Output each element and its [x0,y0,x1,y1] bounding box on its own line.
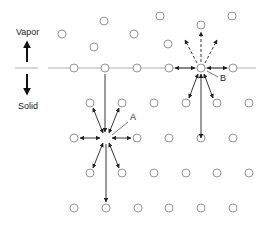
vapor-label: Vapor [16,28,39,37]
solid-label: Solid [18,102,38,111]
lattice-atom [245,169,253,177]
lattice-atom [165,64,173,72]
lattice-atom [133,64,141,72]
vacancy-diffusion-diagram: Vapor Solid A B [0,0,268,229]
lattice-atom [70,204,78,212]
vacancy-b-site [197,64,205,72]
vacancy-a-label: A [130,113,136,122]
lattice-atom [134,204,142,212]
lattice-atom [150,99,158,107]
lattice-atom [86,169,94,177]
vapor-atom [100,17,108,25]
lattice-atom [70,134,78,142]
vapor-atom [130,30,138,38]
lattice-atom [197,204,205,212]
lattice-atom [133,134,141,142]
vapor-atom [58,30,66,38]
lattice-atom [182,169,190,177]
lattice-atom [70,64,78,72]
atom-lattice [58,12,253,212]
lattice-atom [102,204,110,212]
vapor-atom [197,21,205,29]
lattice-atom [150,169,158,177]
vapor-atom [90,43,98,51]
lattice-atom [86,99,94,107]
lattice-atom [118,99,126,107]
lattice-atom [165,204,173,212]
lattice-atom [229,134,237,142]
vacancy-b-label: B [220,74,226,83]
lattice-atom [245,99,253,107]
lattice-atom [165,134,173,142]
lattice-atom [101,64,109,72]
lattice-atom [182,99,190,107]
vapor-atom [164,40,172,48]
vacancy-b-jump-arrows [175,32,227,138]
lattice-atom [229,204,237,212]
lattice-atom [118,169,126,177]
lattice-atom [213,99,221,107]
vapor-atom [228,12,236,20]
vacancy-a-jump-arrows [80,74,131,202]
lattice-atom [229,64,237,72]
vapor-atom [156,12,164,20]
lattice-atom [213,169,221,177]
